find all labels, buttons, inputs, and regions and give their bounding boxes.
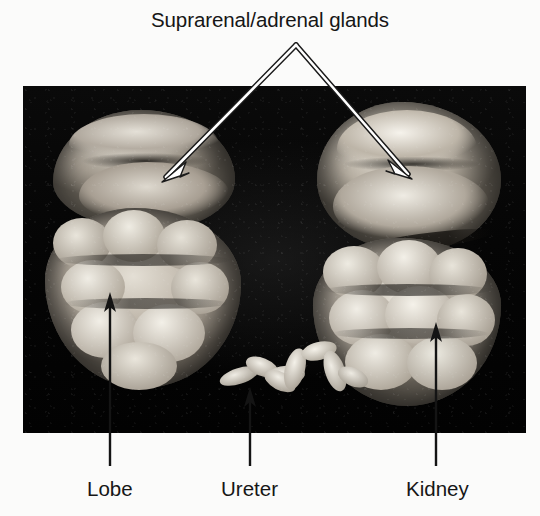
left-kidney-specimen [45, 104, 245, 404]
label-lobe: Lobe [87, 477, 133, 501]
right-kidney-fissure [325, 284, 491, 296]
left-kidney-lobule [101, 342, 177, 390]
right-kidney-lobule [407, 336, 477, 390]
left-kidney-fissure [55, 254, 231, 266]
label-kidney: Kidney [406, 477, 469, 501]
specimen-photograph [23, 86, 526, 433]
figure-title: Suprarenal/adrenal glands [0, 8, 540, 32]
right-ureter [263, 338, 373, 404]
anatomical-figure: Suprarenal/adrenal glands [0, 0, 540, 516]
label-ureter: Ureter [221, 477, 278, 501]
left-kidney-fissure [63, 298, 229, 309]
